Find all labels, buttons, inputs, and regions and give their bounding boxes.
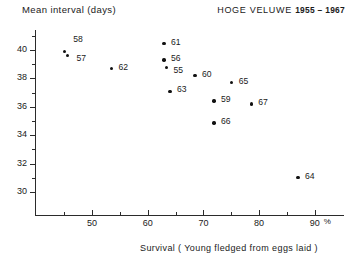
data-point-label-55: 55 [174,65,184,75]
data-point-label-67: 67 [258,97,268,107]
data-point-label-62: 62 [119,62,129,72]
x-tick-50 [92,210,93,215]
data-point-59 [212,99,215,102]
x-tick-80 [259,210,260,215]
data-point-64 [296,176,299,179]
y-tick-32 [30,164,35,165]
x-axis-label: Survival ( Young fledged from eggs laid … [140,243,318,253]
data-point-label-60: 60 [202,69,212,79]
y-tick-38 [30,78,35,79]
y-minor-tick-41 [32,36,35,37]
x-axis-percent-sign: % [324,217,331,226]
data-point-label-61: 61 [171,37,181,47]
x-tick-90 [315,210,316,215]
data-point-62 [110,67,113,70]
y-tick-label-32: 32 [9,158,27,168]
data-point-58 [63,50,66,53]
chart-title-years: 1955 – 1967 [295,5,345,15]
x-minor-tick-75 [231,212,232,215]
y-axis-line [35,30,36,216]
data-point-55 [165,66,168,69]
data-point-56 [162,58,165,61]
data-point-67 [250,102,253,105]
chart-title-place: HOGE VELUWE [217,5,292,15]
y-minor-tick-33 [32,149,35,150]
data-point-label-59: 59 [221,94,231,104]
x-axis-line [35,215,344,216]
x-tick-label-60: 60 [136,218,160,228]
x-minor-tick-45 [64,212,65,215]
data-point-label-66: 66 [221,116,231,126]
data-point-65 [230,81,233,84]
data-point-57 [66,54,69,57]
x-tick-60 [148,210,149,215]
x-minor-tick-65 [176,212,177,215]
y-minor-tick-35 [32,121,35,122]
data-point-label-63: 63 [177,84,187,94]
y-tick-label-38: 38 [9,72,27,82]
data-point-60 [193,74,196,77]
data-point-63 [168,90,171,93]
y-minor-tick-31 [32,178,35,179]
chart-title: HOGE VELUWE 1955 – 1967 [217,5,345,15]
data-point-61 [162,42,165,45]
data-point-label-57: 57 [77,53,87,63]
data-point-label-64: 64 [305,171,315,181]
data-point-66 [212,121,215,124]
y-tick-label-34: 34 [9,129,27,139]
x-tick-label-80: 80 [247,218,271,228]
chart-figure: Mean interval (days) HOGE VELUWE 1955 – … [0,0,353,263]
y-tick-30 [30,192,35,193]
y-tick-label-30: 30 [9,186,27,196]
data-point-label-65: 65 [239,76,249,86]
x-minor-tick-55 [120,212,121,215]
data-point-label-58: 58 [73,34,83,44]
x-tick-70 [203,210,204,215]
x-tick-label-70: 70 [191,218,215,228]
x-minor-tick-85 [287,212,288,215]
y-axis-label: Mean interval (days) [22,4,116,15]
data-point-label-56: 56 [171,53,181,63]
y-tick-label-40: 40 [9,44,27,54]
x-tick-label-50: 50 [80,218,104,228]
y-minor-tick-39 [32,64,35,65]
y-tick-36 [30,107,35,108]
y-tick-label-36: 36 [9,101,27,111]
y-minor-tick-37 [32,93,35,94]
y-tick-40 [30,50,35,51]
y-tick-34 [30,135,35,136]
